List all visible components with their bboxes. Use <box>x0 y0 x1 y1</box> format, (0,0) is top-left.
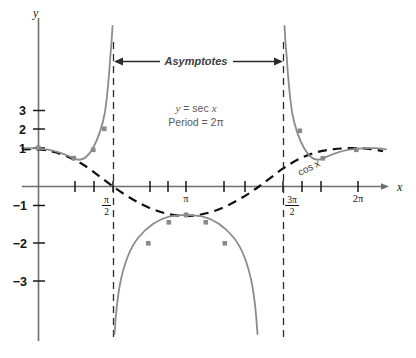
equation-x: x <box>211 102 217 114</box>
y-tick-label-1: 1 <box>19 142 26 156</box>
pi-half-denominator: 2 <box>104 207 109 217</box>
sec-marker <box>102 127 107 132</box>
y-axis-label: y <box>32 6 39 20</box>
graph-canvas: y x 3 2 1 −1 −2 −3 π 2 π 3π 2 2π Asympto… <box>0 0 416 358</box>
asymptote-arrow-left-head <box>114 58 123 66</box>
trig-graph-figure: y x 3 2 1 −1 −2 −3 π 2 π 3π 2 2π Asympto… <box>0 0 416 358</box>
equation-line-1: y = sec x <box>174 102 216 114</box>
y-tick-label-minus-3: −3 <box>13 275 27 289</box>
asymptotes-group <box>114 42 284 341</box>
sec-branch-upper-right <box>285 26 387 160</box>
x-tick-label-2pi: 2π <box>353 193 364 204</box>
sec-marker <box>204 220 209 225</box>
sec-marker <box>184 213 189 218</box>
sec-marker <box>298 129 303 134</box>
sec-branch-upper-left <box>22 26 113 160</box>
sec-curve-group <box>22 26 386 334</box>
y-tick-label-2: 2 <box>19 123 26 137</box>
x-tick-label-3pi-half: 3π 2 <box>285 195 299 217</box>
equation-sec: sec <box>192 102 208 114</box>
asymptotes-annotation-label: Asymptotes <box>164 55 228 67</box>
equation-annotation: y = sec x Period = 2π <box>168 102 223 128</box>
asymptote-arrow-right-head <box>274 58 283 66</box>
sec-marker <box>354 148 359 153</box>
sec-branch-lower-middle <box>115 215 258 334</box>
cos-curve-group <box>22 148 383 216</box>
cos-curve-path <box>22 148 383 216</box>
x-axis-label: x <box>396 180 403 194</box>
cos-curve-label: cos x <box>296 157 322 177</box>
sec-marker <box>91 148 96 153</box>
y-tick-label-3: 3 <box>19 104 26 118</box>
pi-half-numerator: π <box>104 195 109 205</box>
y-tick-label-minus-2: −2 <box>13 237 27 251</box>
three-pi-half-denominator: 2 <box>290 207 295 217</box>
sec-marker <box>223 241 228 246</box>
sec-marker <box>72 156 77 161</box>
sec-marker <box>36 146 41 151</box>
y-tick-label-minus-1: −1 <box>13 199 27 213</box>
sec-marker <box>321 156 326 161</box>
sec-marker <box>146 241 151 246</box>
sec-marker <box>167 220 172 225</box>
three-pi-half-numerator: 3π <box>287 195 297 205</box>
x-axis-arrowhead <box>381 183 389 189</box>
period-label: Period = 2π <box>168 116 223 128</box>
x-tick-label-pi-half: π 2 <box>102 195 111 217</box>
x-tick-label-pi: π <box>183 193 189 204</box>
